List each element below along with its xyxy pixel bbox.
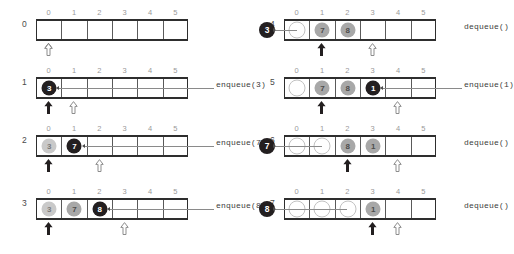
array-cell-0[interactable]: 3 [37,200,62,218]
index-label-3: 3 [360,8,385,18]
index-label-1: 1 [309,124,334,134]
index-label-0: 0 [284,66,309,76]
index-labels: 012345 [284,66,436,77]
index-label-3: 3 [112,8,137,18]
index-label-4: 4 [385,187,410,197]
index-label-3: 3 [360,124,385,134]
index-label-4: 4 [137,124,162,134]
queue-item-1: 1 [366,81,381,96]
array-cell-3[interactable] [113,21,138,39]
queue-item-7: 7 [67,202,82,217]
index-label-2: 2 [87,66,112,76]
step-number: 5 [270,78,275,87]
array-cell-5[interactable] [164,21,189,39]
array-cell-2[interactable]: 8 [336,137,361,155]
front-pointer-arrow [44,159,53,172]
index-labels: 012345 [36,187,188,198]
dequeue-arrowhead [273,28,276,32]
index-labels: 012345 [284,124,436,135]
array-cell-2[interactable] [88,21,113,39]
queue-item-7: 7 [315,81,330,96]
index-label-0: 0 [36,66,61,76]
operation-label: dequeue() [464,138,509,147]
index-label-5: 5 [163,66,188,76]
index-label-4: 4 [385,124,410,134]
index-label-3: 3 [360,66,385,76]
rear-pointer-arrow [393,222,402,235]
index-label-0: 0 [36,187,61,197]
index-labels: 012345 [36,8,188,19]
index-label-4: 4 [385,8,410,18]
index-label-2: 2 [335,8,360,18]
array-cell-1[interactable] [62,21,87,39]
array-cell-0[interactable] [37,21,62,39]
index-label-3: 3 [112,124,137,134]
index-label-1: 1 [309,66,334,76]
index-label-1: 1 [61,124,86,134]
index-label-1: 1 [309,8,334,18]
index-label-1: 1 [61,8,86,18]
index-label-0: 0 [284,187,309,197]
dequeue-arrowhead [273,144,276,148]
queue-item-3: 3 [42,202,57,217]
operation-label: dequeue() [464,22,509,31]
array-cell-5[interactable] [412,137,437,155]
index-label-5: 5 [163,187,188,197]
index-label-2: 2 [87,8,112,18]
rear-pointer-arrow [44,43,53,56]
index-label-4: 4 [137,66,162,76]
index-label-0: 0 [284,8,309,18]
front-pointer-arrow [44,101,53,114]
index-labels: 012345 [284,187,436,198]
rear-pointer-arrow [120,222,129,235]
array-cell-1[interactable]: 7 [310,21,335,39]
array-cell-4[interactable] [386,21,411,39]
index-label-4: 4 [385,66,410,76]
enqueue-connector-line [85,146,214,147]
array-cell-3[interactable] [361,21,386,39]
array-cell-3[interactable]: 1 [361,200,386,218]
index-label-5: 5 [163,8,188,18]
array-cell-1[interactable]: 7 [62,200,87,218]
enqueue-connector-line [383,88,462,89]
queue-item-7: 7 [67,139,82,154]
dequeue-connector-line [274,209,347,210]
queue-item-1: 1 [366,139,381,154]
front-pointer-arrow [317,43,326,56]
index-label-5: 5 [411,124,436,134]
index-label-5: 5 [163,124,188,134]
queue-item-8: 8 [340,81,355,96]
vacated-slot-marker [289,80,306,97]
queue-item-7: 7 [315,23,330,38]
index-label-0: 0 [36,124,61,134]
array-cell-5[interactable] [412,200,437,218]
index-label-0: 0 [284,124,309,134]
array-cell-2[interactable]: 8 [336,21,361,39]
array-cell-2[interactable]: 8 [336,79,361,97]
index-label-2: 2 [87,124,112,134]
dequeue-connector-line [274,30,297,31]
index-label-2: 2 [335,187,360,197]
array-cell-0[interactable] [285,79,310,97]
index-labels: 012345 [36,66,188,77]
front-pointer-arrow [317,101,326,114]
array-cells [36,19,188,41]
array-cell-0[interactable]: 3 [37,137,62,155]
enqueue-connector-line [110,209,214,210]
index-label-1: 1 [61,187,86,197]
queue-item-3: 3 [42,81,57,96]
step-number: 3 [22,199,27,208]
index-labels: 012345 [284,8,436,19]
queue-item-1: 1 [366,202,381,217]
array-cell-4[interactable] [138,21,163,39]
array-cell-4[interactable] [386,137,411,155]
front-pointer-arrow [343,159,352,172]
enqueue-arrowhead [107,207,110,211]
array-cell-5[interactable] [412,21,437,39]
index-label-3: 3 [360,187,385,197]
array-cell-1[interactable]: 7 [310,79,335,97]
rear-pointer-arrow [393,159,402,172]
array-cell-3[interactable]: 1 [361,137,386,155]
array-cell-4[interactable] [386,200,411,218]
